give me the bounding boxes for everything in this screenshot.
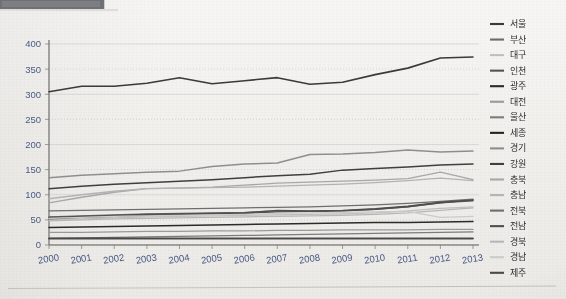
y-tick-label: 100 xyxy=(25,189,41,200)
legend-label: 제주 xyxy=(510,268,526,278)
legend-item[interactable]: 경기 xyxy=(490,142,526,153)
legend-label: 충남 xyxy=(510,190,526,200)
legend-item[interactable]: 세종 xyxy=(490,128,526,138)
chart-legend: 서울부산대구인천광주대전울산세종경기강원충북충남전북전남경북경남제주 xyxy=(490,19,526,278)
x-tick-label: 2005 xyxy=(200,251,223,265)
legend-label: 전북 xyxy=(510,206,526,216)
legend-label: 강원 xyxy=(510,159,526,169)
legend-label: 경북 xyxy=(510,236,526,247)
x-tick-label: 2007 xyxy=(265,251,288,265)
x-tick-label: 2001 xyxy=(70,251,93,265)
legend-item[interactable]: 전북 xyxy=(490,206,526,216)
legend-item[interactable]: 제주 xyxy=(490,268,526,278)
x-tick-label: 2013 xyxy=(461,251,484,265)
x-tick-label: 2003 xyxy=(135,251,158,265)
legend-item[interactable]: 경남 xyxy=(490,251,526,262)
x-tick-label: 2010 xyxy=(363,251,386,265)
y-tick-label: 0 xyxy=(36,239,41,250)
y-axis-tick-labels: 050100150200250300350400 xyxy=(25,38,41,250)
chart-canvas: 050100150200250300350400 200020012002200… xyxy=(0,0,566,299)
y-tick-label: 300 xyxy=(25,89,41,100)
legend-item[interactable]: 강원 xyxy=(490,159,526,169)
series-line xyxy=(49,164,473,189)
legend-label: 경남 xyxy=(510,251,526,262)
legend-label: 광주 xyxy=(510,80,526,91)
series-line xyxy=(49,232,473,239)
legend-item[interactable]: 부산 xyxy=(490,35,526,45)
legend-label: 대전 xyxy=(510,97,526,107)
y-tick-label: 50 xyxy=(30,214,41,225)
series-line xyxy=(49,199,473,211)
legend-label: 충북 xyxy=(510,175,526,185)
series-lines xyxy=(49,57,473,238)
series-line xyxy=(49,57,473,92)
legend-item[interactable]: 서울 xyxy=(490,19,526,29)
series-line xyxy=(49,221,473,227)
x-tick-label: 2002 xyxy=(102,251,125,265)
y-tick-label: 200 xyxy=(25,139,41,150)
legend-label: 경기 xyxy=(510,142,526,153)
legend-item[interactable]: 충북 xyxy=(490,175,526,185)
legend-label: 부산 xyxy=(510,35,526,45)
legend-label: 인천 xyxy=(510,66,526,76)
legend-item[interactable]: 전남 xyxy=(490,221,526,231)
x-tick-label: 2004 xyxy=(168,251,191,265)
legend-item[interactable]: 충남 xyxy=(490,190,526,200)
legend-item[interactable]: 울산 xyxy=(490,112,526,122)
series-line xyxy=(49,178,473,199)
x-axis-tick-labels: 2000200120022003200420052006200720082009… xyxy=(37,251,484,265)
legend-item[interactable]: 광주 xyxy=(490,80,526,91)
y-tick-label: 400 xyxy=(25,38,41,49)
legend-label: 세종 xyxy=(510,128,526,138)
legend-item[interactable]: 대전 xyxy=(490,97,526,107)
legend-item[interactable]: 대구 xyxy=(490,50,526,60)
x-tick-label: 2000 xyxy=(37,251,60,265)
x-tick-label: 2009 xyxy=(331,251,354,265)
y-tick-label: 150 xyxy=(25,164,41,175)
legend-label: 서울 xyxy=(510,19,526,29)
series-line xyxy=(49,229,473,232)
y-tick-label: 250 xyxy=(25,114,41,125)
legend-label: 울산 xyxy=(510,112,526,122)
legend-label: 대구 xyxy=(510,50,526,60)
legend-item[interactable]: 경북 xyxy=(490,236,526,247)
x-tick-label: 2012 xyxy=(429,251,452,265)
x-tick-label: 2011 xyxy=(396,252,418,266)
legend-item[interactable]: 인천 xyxy=(490,66,526,76)
x-tick-label: 2006 xyxy=(233,251,256,265)
line-chart: 050100150200250300350400 200020012002200… xyxy=(0,0,566,299)
legend-label: 전남 xyxy=(510,221,526,231)
series-line xyxy=(49,150,473,178)
x-tick-label: 2008 xyxy=(298,251,321,265)
y-tick-label: 350 xyxy=(25,64,41,75)
